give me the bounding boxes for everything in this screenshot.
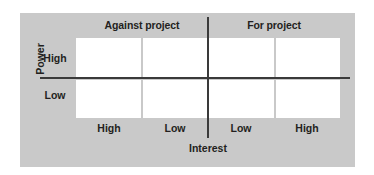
y-axis-label-low: Low xyxy=(38,88,72,102)
horizontal-axis-line xyxy=(40,77,350,79)
vertical-axis-line xyxy=(207,17,209,138)
matrix-cell xyxy=(143,80,208,119)
matrix-cell xyxy=(209,80,274,119)
matrix-cell xyxy=(76,80,141,119)
power-interest-matrix-figure: Against project For project Power High L… xyxy=(0,0,374,175)
x-axis-tick-labels: High Low Low High xyxy=(76,121,340,135)
y-axis-label-high: High xyxy=(38,51,72,65)
x-axis-tick-3: Low xyxy=(208,121,274,135)
matrix-cell xyxy=(76,38,141,77)
x-axis-tick-2: Low xyxy=(142,121,208,135)
matrix-cell xyxy=(276,38,341,77)
matrix-cell xyxy=(143,38,208,77)
x-axis-title: Interest xyxy=(128,141,288,155)
x-axis-tick-1: High xyxy=(76,121,142,135)
matrix-cell xyxy=(276,80,341,119)
x-axis-tick-4: High xyxy=(274,121,340,135)
header-against-project: Against project xyxy=(76,18,208,32)
matrix-cell xyxy=(209,38,274,77)
header-for-project: For project xyxy=(208,18,340,32)
